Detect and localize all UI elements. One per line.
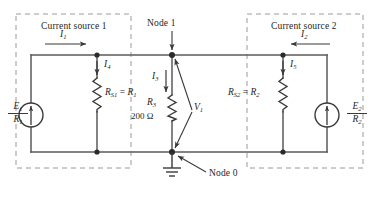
junction-dot-node1: [169, 52, 175, 58]
resistor-rs1-symbol: [93, 78, 101, 112]
junction-dot-rs1-bottom: [94, 149, 99, 154]
current-i2-label: I2: [301, 30, 307, 40]
current-i5-label: I5: [290, 60, 296, 70]
junction-dot-rs1-top: [94, 52, 99, 57]
node-1-label: Node 1: [147, 19, 176, 29]
current-i1-label: I1: [60, 30, 66, 40]
circuit-diagram-canvas: Current source 1 Current source 2 Node 1…: [0, 0, 384, 202]
node-0-label: Node 0: [209, 169, 238, 179]
resistor-rs2-symbol: [279, 78, 287, 112]
current-i4-label: I4: [104, 60, 110, 70]
resistor-rs1-label: RS1 = R1: [105, 88, 137, 98]
resistor-r3-label: R3: [147, 98, 156, 108]
current-source-2-symbol: [315, 103, 339, 127]
current-source-1-label: Current source 1: [41, 22, 107, 32]
current-source-1-value: E1 R1: [8, 102, 28, 125]
current-i3-label: I3: [152, 72, 158, 82]
node0-leader: [178, 156, 206, 172]
resistor-rs2-label: RS2 = R2: [228, 88, 260, 98]
voltage-v1-arrow: [175, 59, 192, 148]
junction-dot-rs2-top: [280, 52, 285, 57]
junction-dot-rs2-bottom: [280, 149, 285, 154]
resistor-r3-symbol: [168, 95, 176, 121]
resistor-r3-value: 200 Ω: [131, 112, 153, 121]
current-source-2-value: E2 R2: [347, 102, 367, 125]
voltage-v1-label: V1: [194, 103, 203, 113]
